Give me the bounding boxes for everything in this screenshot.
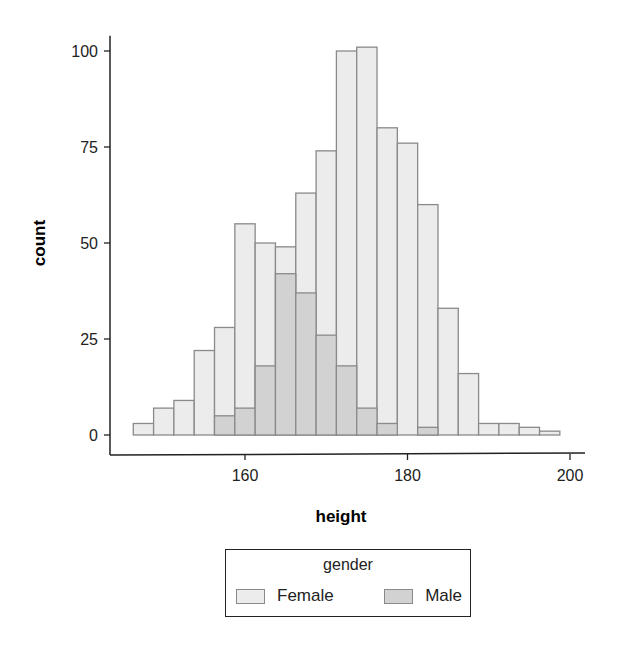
female-bar: [458, 374, 478, 435]
male-bar: [357, 408, 377, 435]
female-bar: [418, 205, 438, 435]
male-bar: [377, 423, 397, 435]
female-bar: [194, 351, 214, 435]
legend-item-female: Female: [236, 586, 334, 606]
female-bar: [154, 408, 174, 435]
legend-label-female: Female: [277, 586, 334, 606]
male-bar: [235, 408, 255, 435]
y-tick-label: 100: [71, 43, 98, 60]
legend-label-male: Male: [425, 586, 462, 606]
female-bar: [377, 128, 397, 435]
male-bar: [275, 274, 295, 435]
female-bar: [174, 400, 194, 435]
legend-items: Female Male: [236, 586, 462, 606]
x-tick-label: 180: [394, 467, 421, 484]
female-bar: [438, 308, 458, 435]
x-axis-title: height: [316, 507, 367, 526]
y-tick-label: 0: [89, 427, 98, 444]
female-bar: [519, 427, 539, 435]
female-bar: [479, 423, 499, 435]
x-axis: 160180200: [110, 453, 585, 484]
y-tick-label: 50: [80, 235, 98, 252]
legend: gender Female Male: [225, 549, 471, 617]
female-bar: [357, 47, 377, 435]
legend-item-male: Male: [384, 586, 462, 606]
x-tick-label: 160: [232, 467, 259, 484]
female-bar: [499, 423, 519, 435]
female-bar: [235, 224, 255, 435]
male-bar: [336, 366, 356, 435]
legend-title: gender: [226, 556, 470, 574]
female-bar: [133, 423, 153, 435]
male-bar: [255, 366, 275, 435]
y-tick-label: 75: [80, 139, 98, 156]
male-bar: [316, 335, 336, 435]
male-bar: [215, 416, 235, 435]
female-bar: [397, 143, 417, 435]
x-tick-label: 200: [557, 467, 584, 484]
female-bar: [540, 431, 560, 435]
y-axis-title: count: [30, 220, 49, 267]
y-tick-label: 25: [80, 331, 98, 348]
female-swatch-icon: [236, 589, 265, 604]
male-swatch-icon: [384, 589, 413, 604]
y-axis: 0255075100: [71, 36, 110, 455]
male-bar: [296, 293, 316, 435]
male-bar: [418, 427, 438, 435]
histogram-chart: 0255075100 160180200 height count: [0, 0, 620, 540]
